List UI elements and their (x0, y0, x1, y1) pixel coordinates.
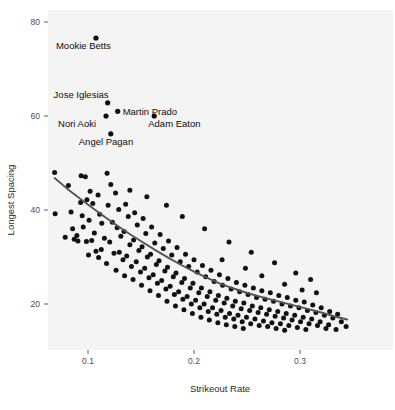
scatter-point (86, 253, 91, 258)
scatter-point (176, 289, 181, 294)
scatter-chart: 0.10.20.3 20406080 Mookie BettsJose Igle… (0, 0, 395, 410)
scatter-point (183, 252, 188, 257)
scatter-point (180, 297, 185, 302)
scatter-point (243, 266, 248, 271)
scatter-point (140, 244, 145, 249)
scatter-point (275, 309, 280, 314)
scatter-point (309, 317, 314, 322)
x-axis-ticks: 0.10.20.3 (82, 350, 306, 366)
scatter-point (188, 286, 193, 291)
scatter-point (158, 232, 163, 237)
scatter-point (139, 283, 144, 288)
scatter-point (295, 325, 300, 330)
scatter-point (293, 270, 298, 275)
y-tick-label: 20 (31, 299, 41, 309)
scatter-point (105, 171, 110, 176)
annotated-scatter-point (115, 109, 120, 114)
scatter-point (241, 301, 246, 306)
scatter-point (84, 239, 89, 244)
scatter-point (143, 231, 148, 236)
scatter-point (307, 321, 312, 326)
scatter-point (235, 313, 240, 318)
scatter-point (175, 245, 180, 250)
scatter-point (113, 191, 118, 196)
scatter-point (276, 293, 281, 298)
scatter-point (230, 303, 235, 308)
scatter-point (225, 276, 230, 281)
scatter-point (199, 286, 204, 291)
scatter-point (210, 305, 215, 310)
scatter-point (302, 300, 307, 305)
scatter-point (80, 213, 85, 218)
scatter-point (198, 315, 203, 320)
annotated-scatter-point (105, 100, 110, 105)
scatter-point (223, 315, 228, 320)
scatter-point (118, 234, 123, 239)
scatter-point (252, 317, 257, 322)
scatter-point (142, 266, 147, 271)
scatter-point (127, 242, 132, 247)
scatter-point (166, 239, 171, 244)
scatter-point (156, 293, 161, 298)
scatter-point (261, 318, 266, 323)
scatter-point (173, 303, 178, 308)
scatter-point (239, 306, 244, 311)
scatter-point (134, 259, 139, 264)
scatter-point (53, 211, 58, 216)
scatter-point (87, 218, 92, 223)
scatter-point (111, 251, 116, 256)
scatter-point (220, 257, 225, 262)
scatter-point (242, 283, 247, 288)
scatter-point (123, 202, 128, 207)
scatter-point (303, 327, 308, 332)
scatter-point (278, 321, 283, 326)
scatter-point (207, 317, 212, 322)
scatter-point (267, 307, 272, 312)
scatter-point (222, 301, 227, 306)
scatter-point (268, 290, 273, 295)
scatter-point (99, 247, 104, 252)
scatter-point (193, 298, 198, 303)
scatter-point (159, 278, 164, 283)
scatter-point (192, 257, 197, 262)
scatter-point (69, 209, 74, 214)
scatter-point (131, 277, 136, 282)
scatter-point (172, 292, 177, 297)
scatter-point (344, 324, 349, 329)
scatter-point (241, 326, 246, 331)
scatter-point (327, 309, 332, 314)
scatter-point (151, 272, 156, 277)
scatter-point (244, 315, 249, 320)
scatter-point (202, 302, 207, 307)
scatter-point (99, 221, 104, 226)
scatter-point (190, 281, 195, 286)
scatter-point (182, 276, 187, 281)
scatter-point (135, 223, 140, 228)
scatter-point (107, 239, 112, 244)
scatter-point (215, 320, 220, 325)
scatter-point (298, 319, 303, 324)
scatter-point (272, 260, 277, 265)
scatter-point (301, 315, 306, 320)
scatter-point (259, 288, 264, 293)
scatter-point (207, 289, 212, 294)
scatter-point (217, 272, 222, 277)
scatter-point (92, 231, 97, 236)
scatter-point (282, 328, 287, 333)
y-tick-label: 40 (31, 205, 41, 215)
scatter-point (89, 238, 94, 243)
scatter-point (132, 210, 137, 215)
scatter-point (257, 323, 262, 328)
scatter-point (219, 308, 224, 313)
scatter-point (96, 255, 101, 260)
scatter-point (96, 192, 101, 197)
scatter-point (258, 305, 263, 310)
scatter-point (233, 299, 238, 304)
plot-panel-background (48, 10, 393, 350)
scatter-point (290, 317, 295, 322)
scatter-point (339, 319, 344, 324)
scatter-point (248, 321, 253, 326)
x-axis-title: Strikeout Rate (190, 383, 250, 394)
scatter-point (234, 280, 239, 285)
scatter-point (251, 286, 256, 291)
